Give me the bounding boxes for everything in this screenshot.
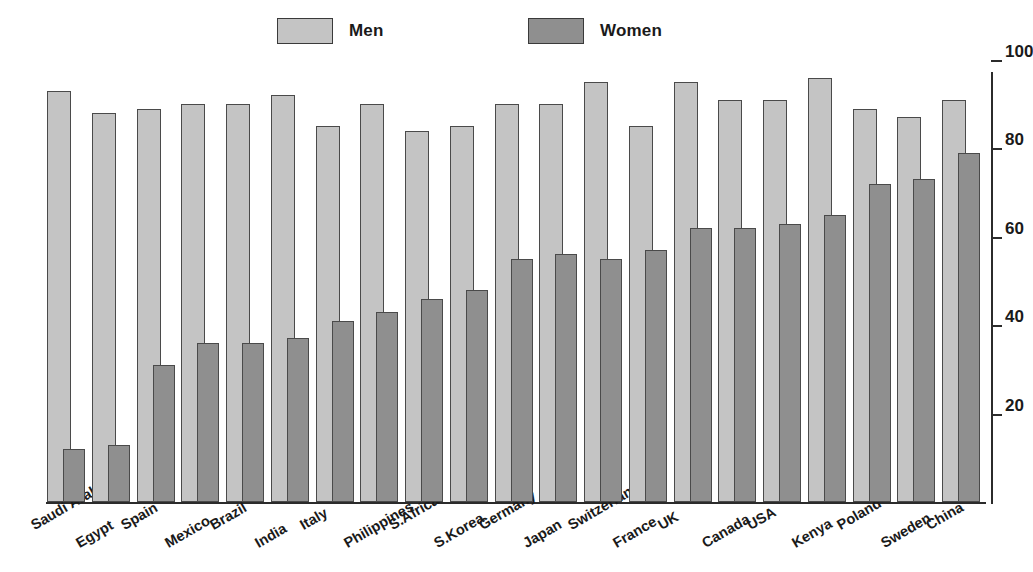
y-axis-tick — [991, 325, 1002, 327]
bar-group — [539, 60, 584, 502]
bar-groups — [46, 60, 986, 503]
bar-women — [913, 179, 935, 502]
bar-group — [897, 60, 942, 502]
y-axis: 10080604020 — [991, 60, 1032, 510]
legend-label-men: Men — [349, 21, 384, 41]
x-axis-label: UK — [655, 509, 681, 533]
bar-group — [92, 60, 137, 502]
bar-group — [405, 60, 450, 502]
bar-group — [763, 60, 808, 502]
bar-group — [584, 60, 629, 502]
bar-women — [242, 343, 264, 502]
x-axis-label: Egypt — [73, 517, 116, 551]
y-axis-line — [991, 72, 993, 504]
y-axis-tick-label: 100 — [1005, 42, 1033, 62]
bar-women — [332, 321, 354, 502]
bar-men — [47, 91, 71, 502]
x-axis-label: Kenya — [789, 515, 835, 551]
x-axis-labels: Saudi ArabiaEgyptSpainMexicoBrazilIndiaI… — [0, 505, 1032, 572]
bar-group — [450, 60, 495, 502]
x-axis-label: Sweden — [878, 510, 933, 551]
bar-women — [690, 228, 712, 502]
bar-group — [47, 60, 92, 502]
plot-area: 10080604020 — [0, 60, 1032, 510]
x-axis-label: Mexico — [162, 512, 213, 550]
bar-women — [600, 259, 622, 502]
y-axis-tick-label: 80 — [1005, 130, 1024, 150]
bar-group — [360, 60, 405, 502]
bar-group — [226, 60, 271, 502]
y-axis-tick — [991, 60, 1002, 62]
x-axis-label: Japan — [520, 516, 564, 551]
bar-women — [824, 215, 846, 502]
bar-women — [511, 259, 533, 502]
y-axis-tick-label: 60 — [1005, 219, 1024, 239]
y-axis-tick — [991, 237, 1002, 239]
bar-group — [181, 60, 226, 502]
x-axis-label: Brazil — [207, 499, 249, 533]
y-axis-tick — [991, 414, 1002, 416]
legend-label-women: Women — [600, 21, 662, 41]
bar-group — [495, 60, 540, 502]
x-axis-label: S.Korea — [431, 510, 486, 551]
bar-women — [555, 254, 577, 502]
bar-women — [287, 338, 309, 502]
bar-group — [942, 60, 987, 502]
bar-group — [629, 60, 674, 502]
bar-group — [271, 60, 316, 502]
bar-women — [421, 299, 443, 502]
bar-women — [63, 449, 85, 502]
bar-women — [734, 228, 756, 502]
legend-entry-women: Women — [528, 18, 662, 44]
bar-women — [645, 250, 667, 502]
y-axis-tick — [991, 148, 1002, 150]
y-axis-tick-label: 20 — [1005, 396, 1024, 416]
x-axis-label: USA — [744, 504, 779, 533]
legend-swatch-men — [277, 18, 333, 44]
y-axis-tick-label: 40 — [1005, 307, 1024, 327]
bar-women — [153, 365, 175, 502]
bar-group — [808, 60, 853, 502]
x-axis-label: France — [610, 513, 659, 551]
legend-swatch-women — [528, 18, 584, 44]
bar-group — [853, 60, 898, 502]
bar-women — [108, 445, 130, 502]
x-axis-label: Canada — [699, 511, 752, 551]
bar-women — [779, 224, 801, 502]
bar-women — [869, 184, 891, 502]
legend-entry-men: Men — [277, 18, 384, 44]
bar-group — [316, 60, 361, 502]
chart-legend: Men Women — [0, 10, 1032, 50]
x-axis-label: India — [252, 520, 289, 551]
bar-group — [674, 60, 719, 502]
x-axis-label: Spain — [118, 499, 160, 533]
bar-women — [197, 343, 219, 502]
bar-group — [718, 60, 763, 502]
x-axis-label: Italy — [297, 504, 330, 532]
bar-women — [466, 290, 488, 502]
bar-women — [376, 312, 398, 502]
bar-group — [137, 60, 182, 502]
bar-women — [958, 153, 980, 502]
